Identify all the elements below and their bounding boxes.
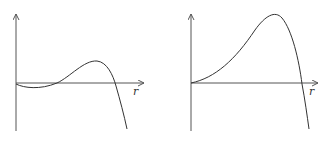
figure: r r — [0, 0, 324, 141]
right-x-axis-label: r — [309, 85, 315, 98]
left-plot: r — [16, 14, 144, 131]
right-curve — [191, 14, 309, 129]
right-plot: r — [191, 14, 318, 131]
left-x-axis-label: r — [133, 85, 139, 98]
left-curve — [16, 61, 127, 129]
